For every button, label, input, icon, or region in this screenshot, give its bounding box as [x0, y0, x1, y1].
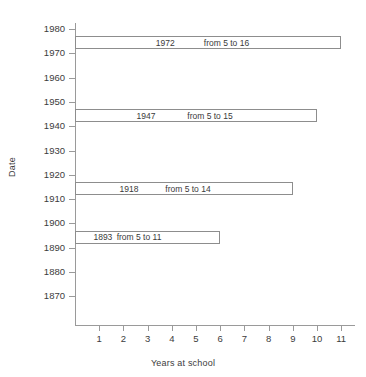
y-tick-label: 1880: [33, 267, 65, 277]
y-axis-title: Date: [7, 137, 17, 197]
x-tick-label: 4: [162, 333, 182, 344]
x-tick-mark: [123, 325, 124, 331]
x-tick-label: 5: [186, 333, 206, 344]
y-tick-label-wrap: 1920: [0, 175, 75, 176]
y-tick-label-wrap: 1930: [0, 151, 75, 152]
x-tick-mark: [148, 325, 149, 331]
y-tick-label: 1950: [33, 97, 65, 107]
x-tick-mark: [293, 325, 294, 331]
y-tick-label: 1940: [33, 121, 65, 131]
bar-year-label: 1893: [93, 232, 112, 243]
y-tick-label-wrap: 1880: [0, 272, 75, 273]
y-tick-label-wrap: 1890: [0, 248, 75, 249]
bar-year-label: 1918: [120, 183, 139, 194]
x-tick-label: 11: [331, 333, 351, 344]
bar-range-label: from 5 to 15: [187, 110, 232, 121]
x-tick-mark: [196, 325, 197, 331]
x-tick-label: 7: [234, 333, 254, 344]
y-tick-label: 1960: [33, 73, 65, 83]
y-tick-label: 1930: [33, 146, 65, 156]
y-tick-label-wrap: 1980: [0, 29, 75, 30]
x-tick-label: 8: [259, 333, 279, 344]
x-tick-mark: [220, 325, 221, 331]
y-tick-label-wrap: 1910: [0, 199, 75, 200]
bar: 1947from 5 to 15: [75, 109, 317, 122]
bar: 1918from 5 to 14: [75, 182, 293, 195]
y-axis-line: [75, 23, 76, 325]
y-tick-label-wrap: 1950: [0, 102, 75, 103]
x-tick-label: 2: [113, 333, 133, 344]
bar: 1972from 5 to 16: [75, 36, 341, 49]
y-tick-label: 1910: [33, 194, 65, 204]
x-tick-mark: [244, 325, 245, 331]
y-tick-label: 1900: [33, 218, 65, 228]
x-tick-mark: [269, 325, 270, 331]
y-tick-label-wrap: 1870: [0, 296, 75, 297]
x-tick-label: 3: [138, 333, 158, 344]
y-tick-label: 1980: [33, 24, 65, 34]
x-tick-mark: [317, 325, 318, 331]
y-tick-label: 1870: [33, 291, 65, 301]
bar-chart: Date Years at school 1870188018901900191…: [0, 0, 366, 377]
bar: 1893from 5 to 11: [75, 231, 220, 244]
x-axis-title: Years at school: [0, 358, 366, 368]
bar-range-label: from 5 to 16: [204, 37, 249, 48]
bar-year-label: 1972: [156, 37, 175, 48]
y-tick-label: 1920: [33, 170, 65, 180]
y-tick-label-wrap: 1940: [0, 126, 75, 127]
bar-year-label: 1947: [137, 110, 156, 121]
x-tick-mark: [99, 325, 100, 331]
y-tick-label: 1970: [33, 48, 65, 58]
x-tick-label: 1: [89, 333, 109, 344]
y-tick-label: 1890: [33, 243, 65, 253]
x-axis-line: [75, 325, 355, 326]
x-tick-mark: [341, 325, 342, 331]
x-tick-label: 9: [283, 333, 303, 344]
x-tick-label: 6: [210, 333, 230, 344]
x-tick-mark: [172, 325, 173, 331]
bar-range-label: from 5 to 14: [165, 183, 210, 194]
bar-range-label: from 5 to 11: [117, 232, 162, 243]
y-tick-label-wrap: 1900: [0, 223, 75, 224]
y-tick-label-wrap: 1970: [0, 53, 75, 54]
x-tick-label: 10: [307, 333, 327, 344]
y-tick-label-wrap: 1960: [0, 78, 75, 79]
